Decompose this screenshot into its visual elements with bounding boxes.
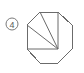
octagon-diagram: 4 [0, 0, 84, 73]
octagon-outline [27, 12, 72, 63]
figure-container: 4 [0, 0, 84, 73]
chord-hub-to-top-left-vertex [40, 12, 58, 49]
chord-hub-to-left-top-vertex [27, 25, 58, 49]
figure-number-label: 4 [9, 20, 14, 30]
